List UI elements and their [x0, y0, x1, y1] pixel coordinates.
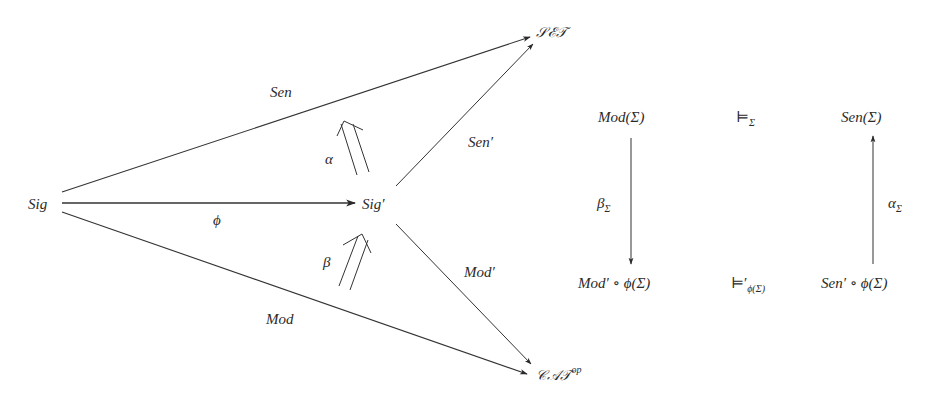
label-beta: β — [323, 255, 330, 270]
satisfaction-prime-phi-sigma: ⊨′ϕ(Σ) — [731, 276, 765, 291]
node-sen-prime-phi-sigma: Sen′ ∘ ϕ(Σ) — [821, 276, 887, 291]
edge-label-sen: Sen — [270, 85, 292, 100]
node-sig-prime: Sig′ — [362, 197, 384, 212]
node-mod-prime-phi-sigma: Mod′ ∘ ϕ(Σ) — [578, 276, 650, 291]
node-set: 𝒮ℰ𝒯 — [536, 25, 568, 39]
node-sig: Sig — [28, 197, 47, 212]
label-alpha-sigma: αΣ — [888, 196, 902, 211]
node-cat-label: 𝒞𝒜𝒯 — [536, 367, 572, 383]
label-beta-sigma: βΣ — [597, 196, 610, 211]
node-cat: 𝒞𝒜𝒯op — [536, 368, 582, 383]
beta-double-arrow — [339, 234, 371, 290]
edge-label-phi: ϕ — [213, 213, 221, 228]
diagram-canvas — [0, 0, 946, 414]
alpha-double-arrow — [337, 121, 369, 175]
label-alpha: α — [325, 152, 333, 167]
edge-sen — [62, 37, 530, 192]
satisfaction-sigma: ⊨Σ — [736, 110, 755, 125]
edge-mod-prime — [396, 224, 531, 364]
edge-mod — [62, 212, 527, 374]
edge-label-mod-prime: Mod′ — [464, 265, 495, 280]
edge-label-sen-prime: Sen′ — [468, 135, 493, 150]
node-mod-sigma: Mod(Σ) — [598, 110, 644, 125]
edge-label-mod: Mod — [266, 312, 294, 327]
edge-sen-prime — [396, 44, 533, 186]
node-sen-sigma: Sen(Σ) — [841, 110, 882, 125]
node-cat-superscript: op — [572, 364, 582, 375]
